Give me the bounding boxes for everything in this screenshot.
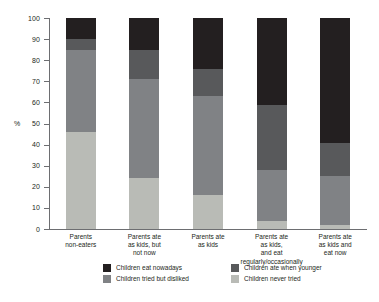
chart-legend: Children eat nowadays Children ate when …	[103, 264, 365, 286]
bar-segment	[66, 132, 96, 229]
legend-row: Children tried but disliked Children nev…	[103, 275, 365, 286]
y-axis-tick-label: 30	[0, 162, 40, 169]
bar-segment	[193, 195, 223, 229]
stacked-bar-chart: % 0102030405060708090100 Parentsnon-eate…	[0, 0, 379, 302]
bar-stack	[257, 18, 287, 229]
bar-segment	[320, 143, 350, 177]
y-axis-tick-label: 100	[0, 15, 40, 22]
legend-label: Children eat nowadays	[116, 264, 182, 272]
x-axis-category-label: Parents ateas kids andeat now	[297, 233, 373, 258]
y-axis-tick-label: 20	[0, 183, 40, 190]
y-axis-tick-label: 40	[0, 141, 40, 148]
bar-segment	[66, 50, 96, 132]
bar-segment	[257, 18, 287, 105]
bar-segment	[129, 79, 159, 178]
category-label-line: eat now	[297, 249, 373, 257]
y-axis-tick-label: 60	[0, 99, 40, 106]
category-label-line: as kids and	[297, 241, 373, 249]
bar-stack	[320, 18, 350, 229]
y-axis-tick-label: 70	[0, 78, 40, 85]
legend-row: Children eat nowadays Children ate when …	[103, 264, 365, 275]
bar-segment	[320, 18, 350, 142]
bar-segment	[66, 39, 96, 50]
legend-label: Children ate when younger	[244, 264, 322, 272]
legend-item-children-ate-when-younger: Children ate when younger	[231, 264, 322, 272]
bar-stack	[66, 18, 96, 229]
legend-label: Children tried but disliked	[116, 275, 189, 283]
bar-segment	[320, 225, 350, 229]
legend-swatch	[103, 264, 111, 272]
plot-area	[49, 18, 367, 229]
category-label-line: not now	[106, 249, 182, 257]
y-axis-tick	[44, 229, 50, 230]
bar-segment	[129, 18, 159, 50]
legend-swatch	[231, 275, 239, 283]
legend-swatch	[103, 275, 111, 283]
y-axis-tick-label: 90	[0, 36, 40, 43]
x-axis-line	[49, 229, 367, 230]
legend-item-children-eat-nowadays: Children eat nowadays	[103, 264, 182, 272]
legend-swatch	[231, 264, 239, 272]
bar-segment	[193, 18, 223, 69]
y-axis-tick-label: 50	[0, 120, 40, 127]
category-label-line: Parents ate	[297, 233, 373, 241]
bar-segment	[193, 69, 223, 96]
bar-segment	[257, 105, 287, 170]
bar-segment	[193, 96, 223, 195]
legend-item-children-never-tried: Children never tried	[231, 275, 301, 283]
bar-stack	[129, 18, 159, 229]
legend-label: Children never tried	[244, 275, 301, 283]
bar-segment	[129, 178, 159, 229]
bar-segment	[320, 176, 350, 225]
y-axis-tick-label: 10	[0, 204, 40, 211]
bar-segment	[257, 170, 287, 221]
bar-stack	[193, 18, 223, 229]
y-axis-tick-label: 80	[0, 57, 40, 64]
bar-segment	[66, 18, 96, 39]
bar-segment	[257, 221, 287, 229]
legend-item-children-tried-but-disliked: Children tried but disliked	[103, 275, 189, 283]
bar-segment	[129, 50, 159, 80]
y-axis-tick-label: 0	[0, 226, 40, 233]
